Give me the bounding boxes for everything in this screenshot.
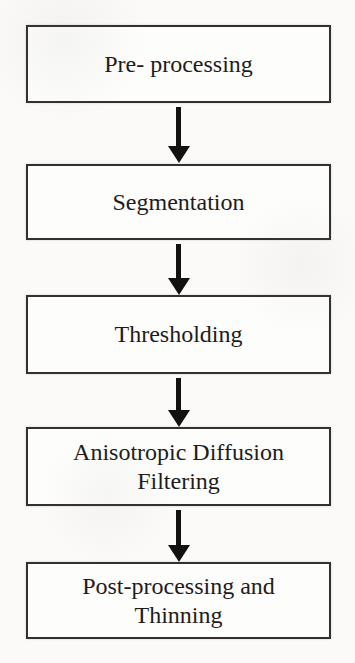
flow-node-segmentation: Segmentation (26, 164, 331, 240)
arrow-shaft (176, 107, 181, 146)
flow-node-label: Anisotropic Diffusion Filtering (73, 438, 284, 496)
down-arrow-icon (168, 240, 190, 295)
flow-node-label: Post-processing and Thinning (82, 572, 275, 630)
arrow-shaft (176, 378, 181, 410)
flow-column: Pre- processing Segmentation Thresholdin… (26, 25, 331, 639)
arrow-shaft (176, 244, 181, 278)
flow-node-thresholding: Thresholding (26, 295, 331, 374)
flow-node-anisotropic-diffusion-filtering: Anisotropic Diffusion Filtering (26, 427, 331, 506)
down-arrow-icon (168, 374, 190, 427)
arrow-head (168, 278, 190, 295)
down-arrow-icon (168, 103, 190, 164)
flow-node-pre-processing: Pre- processing (26, 25, 331, 103)
arrow-shaft (176, 510, 181, 545)
flow-node-label: Segmentation (113, 188, 245, 217)
down-arrow-icon (168, 506, 190, 562)
flowchart-canvas: Pre- processing Segmentation Thresholdin… (0, 0, 355, 663)
flow-node-label: Thresholding (115, 320, 243, 349)
arrow-head (168, 545, 190, 562)
flow-node-post-processing-and-thinning: Post-processing and Thinning (26, 562, 331, 639)
flow-node-label: Pre- processing (104, 50, 253, 79)
arrow-head (168, 410, 190, 427)
arrow-head (168, 146, 190, 163)
